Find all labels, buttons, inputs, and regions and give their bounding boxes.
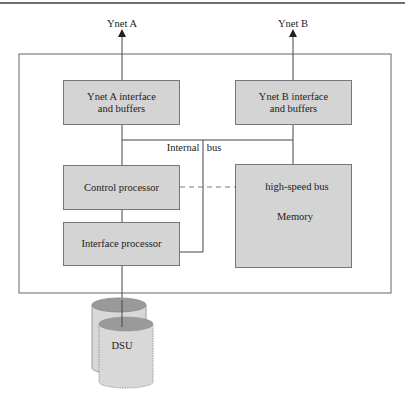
- internal-bus-label-left: Internal: [166, 141, 200, 154]
- ynet-b-interface-line2: and buffers: [270, 103, 317, 115]
- ynet-a-interface-line2: and buffers: [98, 103, 145, 115]
- ynet-a-interface-block: Ynet A interface and buffers: [63, 80, 180, 125]
- interface-processor-block: Interface processor: [63, 222, 180, 266]
- ynet-a-interface-line1: Ynet A interface: [87, 91, 156, 103]
- internal-bus-label-right: bus: [206, 141, 222, 154]
- memory-label: Memory: [270, 210, 320, 223]
- ynet-b-label: Ynet B: [275, 17, 311, 30]
- control-processor-block: Control processor: [63, 165, 180, 210]
- dsu-label: DSU: [108, 339, 136, 352]
- dsu-cylinder-front: [99, 317, 153, 388]
- interface-processor-label: Interface processor: [81, 238, 161, 250]
- ynet-b-interface-line1: Ynet B interface: [259, 91, 328, 103]
- ynet-a-label: Ynet A: [104, 17, 140, 30]
- control-processor-label: Control processor: [84, 182, 159, 194]
- ynet-b-interface-block: Ynet B interface and buffers: [235, 80, 352, 125]
- high-speed-bus-label: high-speed bus: [262, 180, 332, 193]
